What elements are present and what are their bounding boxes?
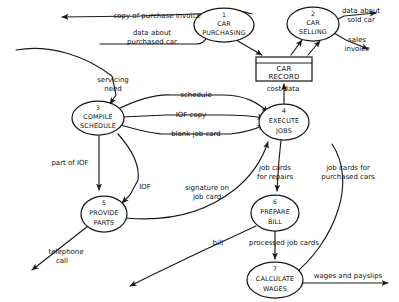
flow-line-bill bbox=[130, 226, 256, 286]
process-provide-parts-label-line-1: PROVIDE bbox=[89, 209, 118, 217]
dfd-canvas: CAR RECORD 1 CAR PURCHASING 2 CAR SELLIN… bbox=[0, 0, 399, 302]
flow-line-signature-on-job-card bbox=[126, 142, 268, 219]
flow-label-signature-on-job-card-line-2: job card bbox=[192, 193, 221, 201]
process-provide-parts-number: 5 bbox=[102, 199, 106, 206]
flow-label-signature-on-job-card-line-1: signature on bbox=[185, 184, 229, 192]
flow-label-job-cards-for-purchased-cars-line-1: job cards for bbox=[325, 164, 370, 172]
flow-label-job-cards-for-purchased-cars-line-2: purchased cars bbox=[321, 173, 375, 181]
flow-label-data-about-sold-car-line-1: data about bbox=[342, 7, 380, 15]
flow-line-iof bbox=[118, 134, 138, 203]
process-prepare-bill[interactable]: 6 PREPARE BILL bbox=[251, 195, 299, 231]
flow-label-part-of-iof: part of IOF bbox=[51, 159, 88, 167]
flow-line-p2-to-car-record-b bbox=[308, 41, 320, 55]
flow-label-data-about-purchased-car-line-2: purchased car bbox=[127, 38, 177, 46]
datastore-car-record[interactable]: CAR RECORD bbox=[256, 57, 312, 81]
process-compile-schedule-label-line-1: COMPILE bbox=[83, 113, 112, 121]
flow-label-servicing-need-line-2: need bbox=[104, 85, 122, 93]
flow-line-p2-to-car-record-a bbox=[291, 40, 302, 55]
flow-label-schedule: schedule bbox=[180, 91, 211, 99]
datastore-car-record-label-line-2: RECORD bbox=[268, 73, 299, 81]
flow-label-job-cards-for-repairs-line-2: for repairs bbox=[257, 173, 293, 181]
process-calculate-wages-number: 7 bbox=[273, 265, 277, 272]
process-provide-parts[interactable]: 5 PROVIDE PARTS bbox=[81, 196, 127, 232]
flow-label-sales-invoice-line-2: invoice bbox=[345, 45, 370, 53]
process-prepare-bill-label-line-1: PREPARE bbox=[260, 208, 290, 216]
flow-label-bill: bill bbox=[213, 239, 223, 247]
flow-label-copy-of-purchase-invoice: copy of purchase invoice bbox=[113, 12, 200, 20]
process-prepare-bill-label-line-2: BILL bbox=[268, 218, 282, 226]
process-car-selling-label-line-1: CAR bbox=[306, 19, 320, 27]
process-car-purchasing-label-line-1: CAR bbox=[217, 20, 231, 28]
process-car-purchasing-number: 1 bbox=[222, 11, 226, 18]
process-compile-schedule-label-line-2: SCHEDULE bbox=[80, 122, 116, 130]
process-car-selling-label-line-2: SELLING bbox=[299, 28, 327, 36]
process-compile-schedule-number: 3 bbox=[96, 104, 100, 111]
process-execute-jobs-label-line-2: JOBS bbox=[275, 127, 292, 135]
process-car-selling[interactable]: 2 CAR SELLING bbox=[287, 7, 339, 41]
flow-lines bbox=[16, 11, 388, 286]
process-execute-jobs[interactable]: 4 EXECUTE JOBS bbox=[259, 104, 309, 140]
flow-label-sales-invoice-line-1: sales bbox=[348, 36, 366, 44]
process-calculate-wages-label-line-2: WAGES bbox=[263, 285, 287, 293]
process-car-selling-number: 2 bbox=[311, 10, 315, 17]
flow-label-telephone-call-line-2: call bbox=[56, 257, 68, 265]
flow-label-iof: IOF bbox=[139, 183, 151, 191]
flow-label-iof-copy: IOF copy bbox=[176, 111, 207, 119]
process-provide-parts-label-line-2: PARTS bbox=[94, 219, 115, 227]
diagram-svg: CAR RECORD 1 CAR PURCHASING 2 CAR SELLIN… bbox=[0, 0, 399, 302]
process-calculate-wages[interactable]: 7 CALCULATE WAGES bbox=[247, 262, 303, 298]
flow-label-data-about-sold-car-line-2: sold car bbox=[347, 16, 375, 24]
process-execute-jobs-number: 4 bbox=[282, 107, 286, 114]
flow-line-p1-to-car-record bbox=[236, 40, 262, 55]
flow-label-cost-data: cost data bbox=[267, 85, 300, 93]
process-car-purchasing-label-line-2: PURCHASING bbox=[202, 29, 245, 37]
flow-label-job-cards-for-repairs-line-1: job cards bbox=[258, 164, 291, 172]
flow-label-blank-job-card: blank job card bbox=[171, 130, 221, 138]
flow-label-servicing-need-line-1: servicing bbox=[97, 76, 129, 84]
flow-label-telephone-call-line-1: telephone bbox=[48, 248, 83, 256]
process-prepare-bill-number: 6 bbox=[273, 198, 277, 205]
process-compile-schedule[interactable]: 3 COMPILE SCHEDULE bbox=[72, 101, 124, 135]
flow-label-wages-and-payslips: wages and payslips bbox=[314, 272, 383, 280]
process-calculate-wages-label-line-1: CALCULATE bbox=[256, 275, 294, 283]
process-execute-jobs-label-line-1: EXECUTE bbox=[269, 117, 300, 125]
flow-label-processed-job-cards: processed job cards bbox=[249, 239, 319, 247]
flow-label-data-about-purchased-car-line-1: data about bbox=[133, 29, 171, 37]
process-car-purchasing[interactable]: 1 CAR PURCHASING bbox=[194, 8, 254, 42]
